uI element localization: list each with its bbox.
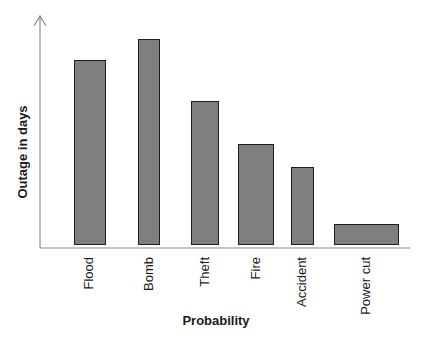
bar-theft: [191, 101, 219, 245]
bar-fire: [238, 144, 274, 245]
x-tick-label: Power cut: [358, 257, 373, 315]
x-axis-label: Probability: [182, 313, 249, 328]
y-axis-label: Outage in days: [15, 105, 30, 198]
x-tick-label: Bomb: [141, 257, 156, 291]
x-tick-label: Fire: [248, 257, 263, 279]
x-tick-label: Accident: [294, 257, 309, 307]
bar-power-cut: [334, 224, 399, 245]
x-tick-label: Theft: [197, 257, 212, 287]
bar-chart: FloodBombTheftFireAccidentPower cut Outa…: [0, 0, 426, 340]
bar-bomb: [138, 39, 160, 245]
bar-accident: [291, 167, 314, 245]
x-tick-label: Flood: [81, 257, 96, 290]
bar-flood: [74, 60, 106, 245]
